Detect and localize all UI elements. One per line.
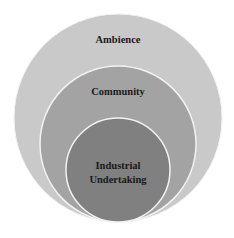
- label-ambience: Ambience: [96, 33, 141, 46]
- label-industrial: Industrial: [96, 159, 141, 172]
- label-undertaking: Undertaking: [89, 173, 146, 186]
- label-community: Community: [91, 85, 145, 98]
